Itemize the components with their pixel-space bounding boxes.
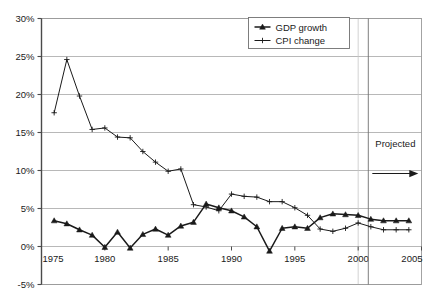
y-tick-label: 25% bbox=[15, 51, 35, 62]
chart-container: -5%0%5%10%15%20%25%30% 19751980198519901… bbox=[0, 0, 444, 298]
y-tick-label: 15% bbox=[15, 127, 35, 138]
legend-label: GDP growth bbox=[276, 22, 328, 33]
x-tick-label: 1995 bbox=[284, 253, 305, 264]
x-tick-label: 2005 bbox=[401, 253, 422, 264]
x-tick-label: 1975 bbox=[43, 253, 64, 264]
y-tick-label: 5% bbox=[21, 203, 35, 214]
x-tick-label: 1985 bbox=[158, 253, 179, 264]
legend-label: CPI change bbox=[276, 35, 326, 46]
y-tick-label: 20% bbox=[15, 89, 35, 100]
x-tick-label: 1990 bbox=[221, 253, 242, 264]
line-chart: -5%0%5%10%15%20%25%30% 19751980198519901… bbox=[0, 0, 444, 298]
x-tick-label: 2000 bbox=[348, 253, 369, 264]
y-tick-label: 30% bbox=[15, 13, 35, 24]
chart-legend[interactable]: GDP growthCPI change bbox=[249, 18, 350, 49]
x-tick-label: 1980 bbox=[94, 253, 115, 264]
x-axis-tick-labels: 1975198019851990199520002005 bbox=[43, 253, 423, 264]
y-tick-label: 0% bbox=[21, 241, 35, 252]
y-tick-label: 10% bbox=[15, 165, 35, 176]
projected-label: Projected bbox=[375, 138, 415, 149]
y-tick-label: -5% bbox=[18, 279, 35, 290]
